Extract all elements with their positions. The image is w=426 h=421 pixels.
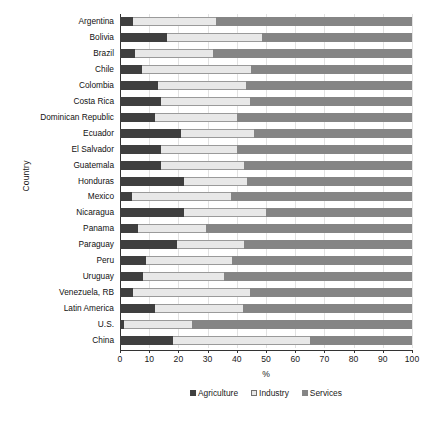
- x-tick: [237, 350, 238, 353]
- bar-segment-agriculture: [120, 256, 146, 265]
- category-label: Dominican Republic: [0, 113, 114, 122]
- category-label: Colombia: [0, 81, 114, 90]
- bar-segment-agriculture: [120, 288, 133, 297]
- category-label: Venezuela, RB: [0, 288, 114, 297]
- bar-segment-industry: [173, 336, 310, 345]
- legend-label-services: Services: [310, 388, 342, 398]
- category-label: Costa Rica: [0, 97, 114, 106]
- bar-segment-industry: [135, 49, 214, 58]
- legend-item-services: Services: [302, 388, 342, 398]
- bar-segment-services: [247, 177, 412, 186]
- bar-row: El Salvador: [120, 145, 412, 154]
- bar-segment-agriculture: [120, 272, 143, 281]
- x-tick: [324, 350, 325, 353]
- bar-segment-industry: [132, 192, 231, 201]
- bar-row: Bolivia: [120, 33, 412, 42]
- bar-segment-industry: [167, 33, 262, 42]
- legend-swatch-services: [302, 390, 308, 396]
- bar-segment-industry: [133, 288, 250, 297]
- bar-segment-agriculture: [120, 33, 167, 42]
- bar-segment-industry: [181, 129, 254, 138]
- bar-row: China: [120, 336, 412, 345]
- category-label: Chile: [0, 65, 114, 74]
- category-label: Honduras: [0, 177, 114, 186]
- bar-segment-services: [254, 129, 412, 138]
- bar-segment-agriculture: [120, 336, 173, 345]
- bar-segment-services: [231, 192, 412, 201]
- bar-segment-services: [251, 65, 412, 74]
- bar-row: Paraguay: [120, 240, 412, 249]
- bar-segment-services: [192, 320, 412, 329]
- x-tick: [178, 350, 179, 353]
- bar-segment-agriculture: [120, 161, 161, 170]
- bar-segment-agriculture: [120, 208, 184, 217]
- x-tick: [266, 350, 267, 353]
- category-label: Ecuador: [0, 129, 114, 138]
- bar-segment-services: [243, 304, 412, 313]
- category-label: U.S.: [0, 320, 114, 329]
- category-label: Latin America: [0, 304, 114, 313]
- bar-segment-industry: [161, 145, 237, 154]
- x-tick: [354, 350, 355, 353]
- bar-row: Mexico: [120, 192, 412, 201]
- bar-segment-services: [244, 161, 412, 170]
- bar-segment-services: [213, 49, 412, 58]
- bar-segment-agriculture: [120, 97, 161, 106]
- bar-segment-agriculture: [120, 65, 142, 74]
- bar-segment-agriculture: [120, 192, 132, 201]
- bar-row: Panama: [120, 224, 412, 233]
- bar-segment-agriculture: [120, 145, 161, 154]
- category-label: Panama: [0, 224, 114, 233]
- plot-area: ArgentinaBoliviaBrazilChileColombiaCosta…: [120, 14, 412, 348]
- bar-segment-industry: [184, 177, 247, 186]
- bar-segment-services: [250, 97, 412, 106]
- bar-row: Honduras: [120, 177, 412, 186]
- bar-row: Ecuador: [120, 129, 412, 138]
- bar-segment-industry: [184, 208, 266, 217]
- bar-row: Guatemala: [120, 161, 412, 170]
- bar-segment-agriculture: [120, 129, 181, 138]
- bar-segment-services: [224, 272, 412, 281]
- category-label: Brazil: [0, 49, 114, 58]
- bar-segment-agriculture: [120, 17, 133, 26]
- bar-segment-agriculture: [120, 304, 155, 313]
- bar-segment-industry: [155, 113, 237, 122]
- category-label: Argentina: [0, 17, 114, 26]
- bar-segment-services: [266, 208, 412, 217]
- bar-segment-industry: [161, 161, 244, 170]
- bar-row: Nicaragua: [120, 208, 412, 217]
- bar-segment-services: [262, 33, 412, 42]
- x-tick-label: 100: [392, 354, 426, 364]
- legend-item-agriculture: Agriculture: [190, 388, 238, 398]
- gridline: [412, 14, 413, 348]
- category-label: Paraguay: [0, 240, 114, 249]
- category-label: Bolivia: [0, 33, 114, 42]
- bar-segment-agriculture: [120, 113, 155, 122]
- legend-label-industry: Industry: [259, 388, 289, 398]
- bar-segment-agriculture: [120, 49, 135, 58]
- bar-segment-industry: [142, 65, 252, 74]
- bar-segment-industry: [146, 256, 232, 265]
- legend-swatch-agriculture: [190, 390, 196, 396]
- bar-segment-industry: [124, 320, 192, 329]
- bar-row: Peru: [120, 256, 412, 265]
- bar-row: Dominican Republic: [120, 113, 412, 122]
- bar-segment-services: [237, 145, 412, 154]
- bar-segment-industry: [161, 97, 250, 106]
- bar-row: Costa Rica: [120, 97, 412, 106]
- category-label: Guatemala: [0, 161, 114, 170]
- bar-segment-agriculture: [120, 240, 177, 249]
- x-axis-title: %: [262, 369, 270, 379]
- chart-legend: Agriculture Industry Services: [190, 388, 342, 398]
- bar-row: Chile: [120, 65, 412, 74]
- bar-segment-industry: [155, 304, 243, 313]
- category-label: El Salvador: [0, 145, 114, 154]
- bar-segment-agriculture: [120, 224, 138, 233]
- bar-segment-industry: [143, 272, 223, 281]
- stacked-bar-chart: Country ArgentinaBoliviaBrazilChileColom…: [0, 0, 426, 421]
- legend-item-industry: Industry: [251, 388, 289, 398]
- legend-swatch-industry: [251, 390, 257, 396]
- bar-row: Argentina: [120, 17, 412, 26]
- bar-segment-agriculture: [120, 177, 184, 186]
- bar-segment-services: [237, 113, 412, 122]
